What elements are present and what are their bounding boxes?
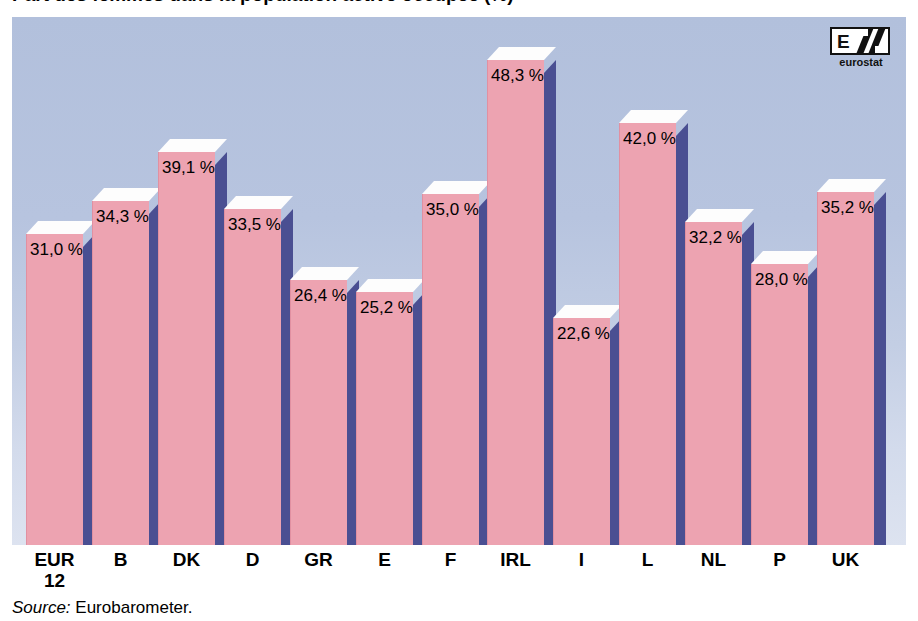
bar-value-label: 34,3 % [96, 207, 149, 227]
bar-front-face [553, 318, 610, 545]
bar-top-face [356, 279, 425, 292]
bar-dk: 39,1 % [158, 139, 227, 545]
bar-front-face [487, 60, 544, 545]
page-title-text: Part des femmes dans la population activ… [12, 0, 514, 6]
x-axis-label-l: L [613, 549, 682, 570]
source-label: Source: [12, 598, 71, 617]
bar-front-face [158, 152, 215, 545]
x-axis-label-b: B [86, 549, 155, 570]
bar-top-face [290, 267, 359, 280]
bar-front-face [224, 209, 281, 545]
bar-value-label: 48,3 % [491, 66, 544, 86]
eurostat-logo-wordmark: eurostat [830, 56, 892, 68]
eurostat-logo-mark: E [830, 27, 890, 55]
bar-value-label: 39,1 % [162, 158, 215, 178]
x-axis-label-irl: IRL [481, 549, 550, 570]
bar-top-face [553, 305, 622, 318]
bar-top-face [92, 188, 161, 201]
bar-e: 25,2 % [356, 279, 425, 545]
bar-front-face [422, 194, 479, 545]
bar-d: 33,5 % [224, 196, 293, 545]
bar-front-face [290, 280, 347, 545]
bar-nl: 32,2 % [685, 209, 754, 545]
bar-side-face [874, 192, 886, 545]
bar-front-face [92, 201, 149, 545]
bar-top-face [487, 47, 556, 60]
bar-value-label: 42,0 % [623, 129, 676, 149]
x-axis-label-dk: DK [152, 549, 221, 570]
bar-uk: 35,2 % [817, 179, 886, 545]
bar-value-label: 35,2 % [821, 198, 874, 218]
bar-eur-12: 31,0 % [26, 221, 95, 545]
bar-front-face [619, 123, 676, 545]
source-value: Eurobarometer. [75, 598, 192, 617]
bar-front-face [751, 264, 808, 545]
bar-top-face [685, 209, 754, 222]
source-note: Source: Eurobarometer. [12, 598, 193, 618]
eurostat-logo-notch-top [859, 29, 868, 36]
x-axis-label-uk: UK [811, 549, 880, 570]
bar-value-label: 35,0 % [426, 200, 479, 220]
bar-top-face [422, 181, 491, 194]
bar-gr: 26,4 % [290, 267, 359, 545]
bar-top-face [817, 179, 886, 192]
bar-front-face [685, 222, 742, 545]
eurostat-logo: E eurostat [830, 27, 892, 68]
bar-value-label: 25,2 % [360, 298, 413, 318]
bar-value-label: 33,5 % [228, 215, 281, 235]
x-axis-label-nl: NL [679, 549, 748, 570]
x-axis-label-i: I [547, 549, 616, 570]
x-axis-label-p: P [745, 549, 814, 570]
bar-f: 35,0 % [422, 181, 491, 545]
bar-front-face [26, 234, 83, 545]
x-axis-label-gr: GR [284, 549, 353, 570]
bar-value-label: 22,6 % [557, 324, 610, 344]
x-axis-label-f: F [416, 549, 485, 570]
bar-value-label: 28,0 % [755, 270, 808, 290]
x-axis-label-e: E [350, 549, 419, 570]
bar-front-face [356, 292, 413, 545]
page-title-cropped: Part des femmes dans la population activ… [0, 0, 918, 10]
eurostat-logo-notch-bottom [875, 46, 884, 53]
chart-plot-area: 31,0 %34,3 %39,1 %33,5 %26,4 %25,2 %35,0… [12, 17, 906, 545]
bar-top-face [26, 221, 95, 234]
bar-top-face [224, 196, 293, 209]
bar-front-face [817, 192, 874, 545]
bar-top-face [751, 251, 820, 264]
bar-top-face [158, 139, 227, 152]
bar-l: 42,0 % [619, 110, 688, 545]
x-axis-label-d: D [218, 549, 287, 570]
bar-i: 22,6 % [553, 305, 622, 545]
eurostat-logo-letter: E [837, 32, 849, 51]
bar-b: 34,3 % [92, 188, 161, 545]
bar-irl: 48,3 % [487, 47, 556, 545]
bar-p: 28,0 % [751, 251, 820, 545]
bar-value-label: 31,0 % [30, 240, 83, 260]
x-axis-labels: EUR 12BDKDGREFIRLILNLPUK [12, 549, 906, 595]
bar-value-label: 26,4 % [294, 286, 347, 306]
bar-value-label: 32,2 % [689, 228, 742, 248]
x-axis-label-eur-12: EUR 12 [20, 549, 89, 591]
bar-top-face [619, 110, 688, 123]
